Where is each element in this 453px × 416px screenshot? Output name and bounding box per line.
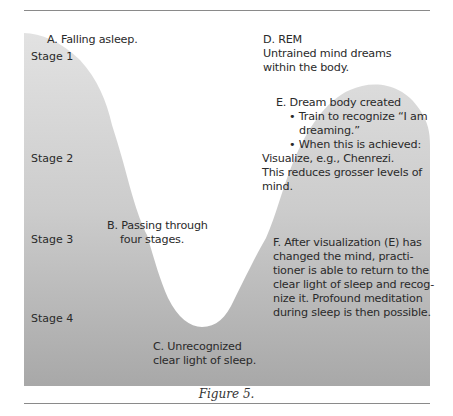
label-b-line2: four stages. [107, 233, 208, 247]
label-d-line1: D. REM [263, 33, 391, 47]
label-d-line3: within the body. [263, 61, 391, 75]
label-f-line6: during sleep is then possible. [273, 306, 434, 320]
label-e-line4: This reduces grosser levels of [262, 166, 422, 180]
stage-1-label: Stage 1 [31, 50, 73, 63]
label-e-line3: Visualize, e.g., Chenrezi. [262, 152, 422, 166]
label-b-passing-stages: B. Passing through four stages. [107, 219, 208, 247]
label-b-line1: B. Passing through [107, 219, 208, 233]
label-f-line4: clear light of sleep and recog- [273, 278, 434, 292]
label-c-clear-light: C. Unrecognized clear light of sleep. [153, 340, 256, 368]
label-e-continued: • When this is achieved: Visualize, e.g.… [262, 138, 422, 194]
label-f-after-visualization: F. After visualization (E) has changed t… [273, 236, 434, 320]
label-d-rem: D. REM Untrained mind dreams within the … [263, 33, 391, 75]
label-d-line2: Untrained mind dreams [263, 47, 391, 61]
label-e-bullet1-line2: dreaming.” [276, 124, 427, 138]
label-f-line1: F. After visualization (E) has [273, 236, 434, 250]
figure-caption: Figure 5. [0, 386, 453, 402]
label-a-falling-asleep: A. Falling asleep. [47, 33, 138, 47]
label-f-line2: changed the mind, practi- [273, 250, 434, 264]
stage-4-label: Stage 4 [31, 312, 73, 325]
stage-2-label: Stage 2 [31, 152, 73, 165]
label-e-dream-body: E. Dream body created • Train to recogni… [276, 96, 427, 138]
label-f-line5: nize it. Profound meditation [273, 292, 434, 306]
bottom-rule [24, 403, 430, 404]
label-c-line2: clear light of sleep. [153, 354, 256, 368]
label-c-line1: C. Unrecognized [153, 340, 256, 354]
label-e-bullet1-line1: • Train to recognize “I am [276, 110, 427, 124]
label-e-title: E. Dream body created [276, 96, 427, 110]
stage-3-label: Stage 3 [31, 233, 73, 246]
label-e-line5: mind. [262, 180, 422, 194]
label-f-line3: tioner is able to return to the [273, 264, 434, 278]
label-e-bullet2: • When this is achieved: [262, 138, 422, 152]
